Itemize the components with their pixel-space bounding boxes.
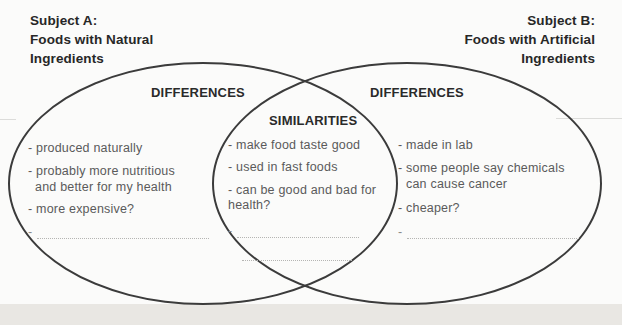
differences-label-left: DIFFERENCES <box>151 85 245 100</box>
list-item-continuation: and better for my health <box>28 180 224 195</box>
fill-in-blank: - <box>398 226 594 239</box>
venn-diagram-worksheet: Subject A: Foods with Natural Ingredient… <box>0 0 622 325</box>
list-item: - some people say chemicals <box>398 161 594 176</box>
blank-dotted-line <box>407 228 579 239</box>
right-circle-items: - made in lab - some people say chemical… <box>398 138 594 239</box>
blank-dash: - <box>28 226 32 239</box>
fill-in-blank: - <box>28 226 224 239</box>
blank-dotted-line <box>37 228 209 239</box>
list-item: - make food taste good <box>228 138 386 153</box>
list-item-continuation: health? <box>228 198 386 213</box>
fill-in-blank: - <box>228 225 386 238</box>
scan-artifact-line-left <box>0 119 16 120</box>
subject-b-title: Subject B: Foods with Artificial Ingredi… <box>464 11 595 68</box>
subject-b-line: Subject B: <box>464 11 595 30</box>
subject-a-line: Foods with Natural <box>30 30 153 49</box>
blank-dotted-line <box>242 250 352 261</box>
list-item: - cheaper? <box>398 201 594 216</box>
blank-dotted-line <box>237 227 359 238</box>
list-item: - made in lab <box>398 138 594 153</box>
list-item: - used in fast foods <box>228 160 386 175</box>
list-item-continuation: can cause cancer <box>398 177 594 192</box>
list-item: - produced naturally <box>28 141 224 156</box>
subject-b-line: Foods with Artificial <box>464 30 595 49</box>
subject-b-line: Ingredients <box>464 49 595 68</box>
blank-dash: - <box>228 225 232 238</box>
left-circle-items: - produced naturally - probably more nut… <box>28 141 224 239</box>
subject-a-title: Subject A: Foods with Natural Ingredient… <box>30 11 153 68</box>
list-item: - more expensive? <box>28 202 224 217</box>
list-item: - probably more nutritious <box>28 164 224 179</box>
fill-in-blank <box>242 248 386 261</box>
similarities-label: SIMILARITIES <box>269 113 357 128</box>
subject-a-line: Subject A: <box>30 11 153 30</box>
subject-a-line: Ingredients <box>30 49 153 68</box>
page-edge-bottom <box>0 304 622 325</box>
differences-label-right: DIFFERENCES <box>370 85 464 100</box>
overlap-items: - make food taste good - used in fast fo… <box>228 138 386 261</box>
blank-dash: - <box>398 226 402 239</box>
list-item: - can be good and bad for <box>228 183 386 198</box>
